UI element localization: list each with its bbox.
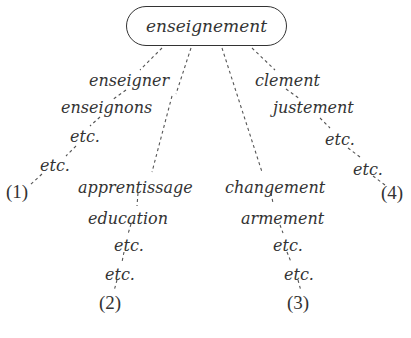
branch-4-item-2: justement [273, 100, 354, 116]
branch-4-item-1: clement [255, 73, 320, 89]
root-node-box: enseignement [126, 6, 287, 46]
branch-1-item-4: etc. [40, 158, 70, 174]
branch-2-item-4: etc. [105, 267, 135, 283]
branch-1-item-3: etc. [70, 129, 100, 145]
branch-3-item-2: armement [241, 211, 324, 227]
branch-1-item-2: enseignons [61, 100, 152, 116]
branch-2-marker: (2) [99, 293, 121, 312]
branch-2-item-2: education [88, 211, 168, 227]
associative-diagram: enseignement enseigner enseignons etc. e… [0, 0, 411, 338]
branch-2-item-3: etc. [114, 238, 144, 254]
branch-1-item-1: enseigner [89, 73, 169, 89]
root-node-label: enseignement [146, 16, 267, 36]
branch-3-marker: (3) [287, 293, 309, 312]
branch-3-item-3: etc. [273, 238, 303, 254]
branch-2-item-1: apprentissage [78, 180, 193, 196]
branch-4-marker: (4) [381, 183, 403, 202]
branch-4-item-3: etc. [325, 132, 355, 148]
branch-4-item-4: etc. [353, 162, 383, 178]
branch-3-item-1: changement [225, 180, 325, 196]
branch-3-item-4: etc. [284, 267, 314, 283]
branch-1-marker: (1) [6, 182, 28, 201]
